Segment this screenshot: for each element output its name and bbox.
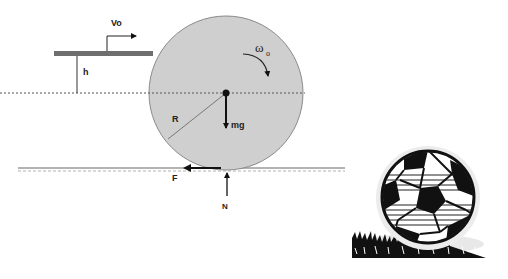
radius-label: R	[172, 114, 179, 124]
normal-label: N	[222, 202, 228, 211]
angular-velocity-subscript: o	[266, 49, 270, 58]
physics-diagram: h Vo ω o R mg F N	[0, 0, 508, 279]
launch-bar	[54, 51, 153, 56]
velocity-label: Vo	[111, 18, 122, 28]
friction-label: F	[172, 173, 178, 183]
velocity-arrow	[107, 36, 136, 51]
angular-velocity-label: ω	[255, 40, 264, 55]
height-label: h	[83, 67, 89, 77]
ground-line	[18, 168, 345, 171]
soccer-ball-icon	[352, 146, 486, 258]
weight-label: mg	[231, 120, 245, 130]
